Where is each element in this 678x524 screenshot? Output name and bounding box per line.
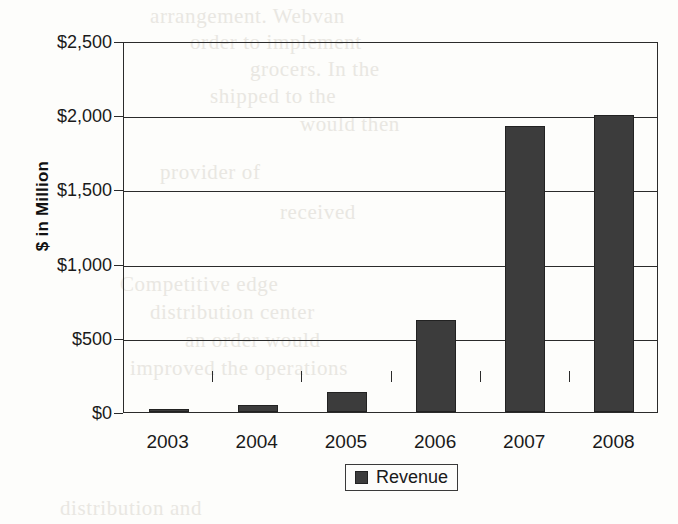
- bar-2008[interactable]: [594, 115, 634, 412]
- x-tick-label-2007: 2007: [480, 431, 569, 453]
- x-tick-mark-2: [301, 371, 302, 382]
- y-tick-label-2000: $2,000: [57, 106, 112, 127]
- chart-page: arrangement. Webvanorder to implementgro…: [0, 0, 678, 524]
- y-tick-mark-2000: [114, 116, 123, 117]
- bar-2006[interactable]: [416, 320, 456, 412]
- plot-area: [123, 42, 658, 413]
- x-tick-label-2005: 2005: [301, 431, 390, 453]
- legend-label-revenue: Revenue: [376, 467, 448, 488]
- bar-2003[interactable]: [149, 409, 189, 412]
- bar-2004[interactable]: [238, 405, 278, 412]
- x-tick-label-2003: 2003: [123, 431, 212, 453]
- y-tick-mark-500: [114, 339, 123, 340]
- y-tick-mark-1000: [114, 265, 123, 266]
- y-tick-label-1000: $1,000: [57, 254, 112, 275]
- y-tick-mark-0: [114, 413, 123, 414]
- x-tick-label-2006: 2006: [391, 431, 480, 453]
- bar-2007[interactable]: [505, 126, 545, 412]
- revenue-color-swatch: [355, 471, 368, 484]
- y-tick-label-0: $0: [92, 403, 112, 424]
- gridline-1000: [124, 266, 657, 267]
- revenue-bar-chart: $ in Million $0$500$1,000$1,500$2,000$2,…: [0, 0, 678, 524]
- gridline-2000: [124, 117, 657, 118]
- x-tick-mark-5: [569, 371, 570, 382]
- gridline-1500: [124, 191, 657, 192]
- x-tick-label-2004: 2004: [212, 431, 301, 453]
- x-tick-mark-3: [391, 371, 392, 382]
- x-tick-mark-4: [480, 371, 481, 382]
- y-tick-label-1500: $1,500: [57, 180, 112, 201]
- y-axis-labels: $0$500$1,000$1,500$2,000$2,500: [0, 0, 112, 524]
- y-tick-mark-2500: [114, 42, 123, 43]
- y-tick-label-2500: $2,500: [57, 32, 112, 53]
- bar-2005[interactable]: [327, 392, 367, 412]
- gridline-500: [124, 340, 657, 341]
- x-tick-mark-1: [212, 371, 213, 382]
- x-tick-label-2008: 2008: [569, 431, 658, 453]
- y-tick-mark-1500: [114, 190, 123, 191]
- y-tick-label-500: $500: [72, 328, 112, 349]
- chart-legend: Revenue: [345, 464, 458, 491]
